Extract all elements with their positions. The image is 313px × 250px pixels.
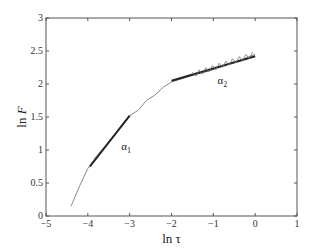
x-tick-label: −3 xyxy=(124,218,135,229)
x-tick-label: −4 xyxy=(83,218,94,229)
data-series xyxy=(71,52,255,206)
y-tick-label: 3 xyxy=(38,12,43,23)
noise-line xyxy=(192,52,252,76)
x-axis-label: ln τ xyxy=(162,231,181,246)
x-tick-label: −1 xyxy=(208,218,219,229)
y-axis-label: ln F xyxy=(14,105,29,127)
y-tick-label: 2.5 xyxy=(31,45,44,56)
plot-frame xyxy=(46,18,297,216)
data-line xyxy=(71,54,255,206)
x-tick-label: 0 xyxy=(253,218,258,229)
annotation: α1 xyxy=(121,140,131,155)
x-tick-label: 1 xyxy=(295,218,300,229)
annotation: α2 xyxy=(218,74,228,89)
y-tick-label: 2 xyxy=(38,78,43,89)
x-tick-label: −2 xyxy=(166,218,177,229)
y-tick-label: 0 xyxy=(38,210,43,221)
chart: −5−4−3−2−10100.511.522.53 α1α2ln τln F xyxy=(0,0,313,250)
y-tick-label: 1.5 xyxy=(31,111,44,122)
plot-area: −5−4−3−2−10100.511.522.53 xyxy=(31,12,300,229)
y-tick-label: 0.5 xyxy=(31,177,44,188)
y-tick-label: 1 xyxy=(38,144,43,155)
